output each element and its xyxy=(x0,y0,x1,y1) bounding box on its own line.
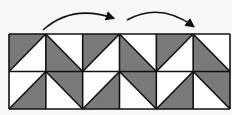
translation-arrow-2-icon xyxy=(127,12,193,26)
translation-arrows xyxy=(43,12,193,30)
translation-arrow-1-icon xyxy=(43,13,113,30)
tessellation-diagram xyxy=(0,0,232,115)
triangle-grid xyxy=(9,34,230,109)
